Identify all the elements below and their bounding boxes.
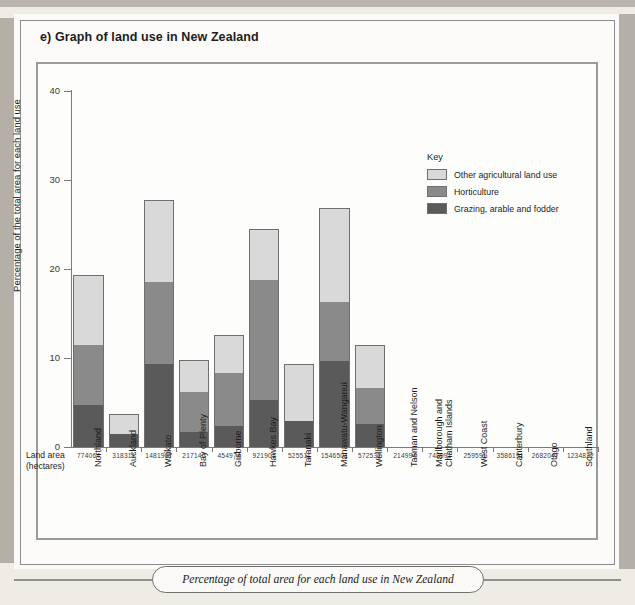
legend-swatch (427, 203, 447, 214)
y-axis-label: Percentage of the total area for each la… (11, 66, 22, 326)
x-axis-tick (106, 447, 107, 452)
y-axis-tick-label: 30 (20, 174, 60, 185)
legend-label: Other agricultural land use (454, 170, 557, 180)
bar-segment (356, 346, 384, 388)
x-axis-category-label: Marlborough andChatham Islands (435, 399, 454, 467)
land-area-caption: Land area (hectares) (26, 450, 72, 471)
bar-segment (250, 280, 278, 400)
bar-segment (320, 302, 348, 361)
x-axis-tick (176, 447, 177, 452)
x-axis-tick (598, 447, 599, 452)
x-axis-category-label: Taranaki (303, 433, 313, 467)
legend-item: Horticulture (427, 186, 559, 197)
x-axis-category-label: Bay of Plenty (198, 414, 208, 467)
x-axis-category-label: Southland (584, 426, 594, 467)
chart-legend: Key Other agricultural land useHorticult… (427, 152, 559, 220)
stacked-bar (249, 229, 279, 447)
x-axis-category-label: Canterbury (514, 422, 524, 467)
x-axis-category-label: Hawkes Bay (268, 417, 278, 467)
x-axis-category-label: Waikato (163, 435, 173, 467)
chart-caption: Percentage of total area for each land u… (152, 566, 484, 593)
bar-segment (320, 209, 348, 302)
y-axis-tick-label: 10 (20, 352, 60, 363)
legend-title: Key (427, 152, 559, 162)
bar-segment (145, 282, 173, 364)
x-axis-tick (457, 447, 458, 452)
bar-segment (285, 365, 313, 421)
x-axis-category-label: Otago (549, 442, 559, 467)
x-axis-tick (387, 447, 388, 452)
bar-segment (74, 345, 102, 405)
right-page-edge (619, 14, 635, 569)
land-area-caption-line2: (hectares) (26, 461, 72, 472)
x-axis-category-label: Wellington (374, 425, 384, 467)
caption-rule-right (482, 579, 621, 581)
x-axis-tick (212, 447, 213, 452)
legend-label: Horticulture (454, 187, 499, 197)
legend-swatch (427, 169, 447, 180)
land-area-caption-line1: Land area (26, 450, 72, 461)
y-axis-tick (64, 91, 72, 92)
x-axis-tick (422, 447, 423, 452)
bar-segment (145, 201, 173, 283)
x-axis-category-label: West Coast (479, 421, 489, 467)
y-axis-tick (64, 447, 72, 448)
legend-swatch (427, 186, 447, 197)
bar-segment (215, 373, 243, 426)
y-axis-tick-label: 40 (20, 85, 60, 96)
legend-item: Other agricultural land use (427, 169, 559, 180)
chart-frame (36, 62, 598, 540)
x-axis-tick (528, 447, 529, 452)
bar-segment (74, 276, 102, 345)
bar-segment (356, 388, 384, 424)
stacked-bar (144, 200, 174, 447)
y-axis-tick-label: 20 (20, 263, 60, 274)
bar-segment (180, 361, 208, 392)
x-axis-category-label: Auckland (128, 430, 138, 467)
x-axis-category-label: Gisborne (233, 430, 243, 467)
y-axis-tick (64, 358, 72, 359)
bar-segment (215, 336, 243, 373)
caption-rule-left (14, 579, 154, 581)
legend-label: Grazing, arable and fodder (454, 204, 559, 214)
x-axis-category-label: Northland (93, 428, 103, 467)
page-title: e) Graph of land use in New Zealand (40, 30, 259, 44)
stacked-bar (73, 275, 103, 447)
x-axis-tick (563, 447, 564, 452)
x-axis-tick (247, 447, 248, 452)
legend-item: Grazing, arable and fodder (427, 203, 559, 214)
x-axis-tick (282, 447, 283, 452)
x-axis-category-label: Tasman and Nelson (409, 387, 419, 467)
x-axis-tick (317, 447, 318, 452)
x-axis-tick (493, 447, 494, 452)
y-axis-tick (64, 269, 72, 270)
x-axis-tick (141, 447, 142, 452)
bar-segment (250, 230, 278, 280)
y-axis-tick (64, 180, 72, 181)
x-axis-category-label: Manawatu-Wanganui (339, 382, 349, 467)
x-axis-tick (352, 447, 353, 452)
